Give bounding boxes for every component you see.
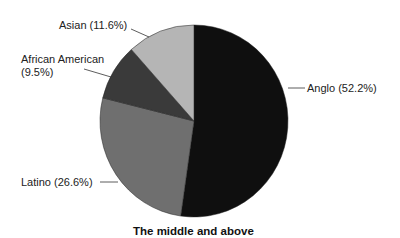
label-african-american: African American (9.5%) <box>21 53 104 79</box>
leader-line-asian <box>131 29 149 37</box>
label-asian: Asian (11.6%) <box>59 19 127 32</box>
chart-title: The middle and above <box>133 225 254 237</box>
label-african-american-name: African American <box>21 53 104 66</box>
pie-slice-anglo <box>181 25 288 217</box>
label-african-american-pct: (9.5%) <box>21 66 104 79</box>
label-anglo: Anglo (52.2%) <box>307 82 377 95</box>
pie-chart <box>0 0 400 238</box>
label-latino: Latino (26.6%) <box>21 176 93 189</box>
pie-slices <box>100 25 288 217</box>
